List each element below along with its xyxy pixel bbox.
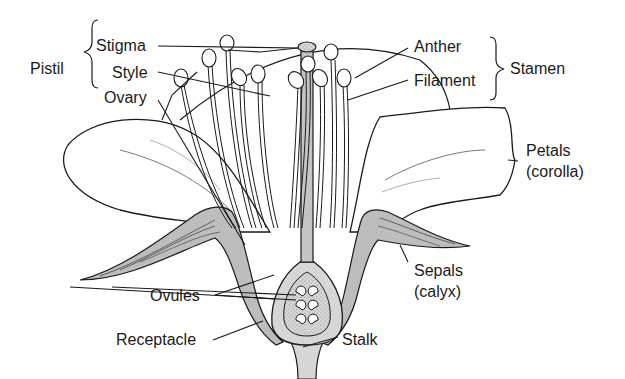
- receptacle-outline: [180, 49, 450, 120]
- label-sepals: Sepals: [414, 262, 463, 280]
- label-stigma: Stigma: [96, 37, 146, 55]
- stamen-brace-icon: [490, 37, 504, 100]
- label-receptacle: Receptacle: [116, 331, 196, 349]
- label-filament: Filament: [414, 72, 475, 90]
- flower-diagram: Pistil Stigma Style Ovary Anther Filamen…: [0, 0, 625, 379]
- stigma: [298, 42, 316, 52]
- label-ovary: Ovary: [104, 89, 147, 107]
- flower-illustration: [0, 0, 625, 379]
- label-stalk: Stalk: [342, 331, 378, 349]
- label-petals: Petals: [526, 142, 570, 160]
- label-petals-sub: (corolla): [526, 163, 584, 181]
- label-pistil: Pistil: [30, 60, 64, 78]
- label-anther: Anther: [414, 38, 461, 56]
- label-style: Style: [112, 64, 148, 82]
- label-ovules: Ovules: [150, 287, 200, 305]
- label-sepals-sub: (calyx): [414, 283, 461, 301]
- label-stamen: Stamen: [510, 60, 565, 78]
